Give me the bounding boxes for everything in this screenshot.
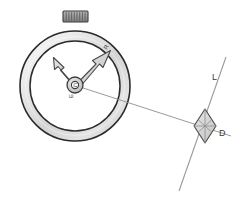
label-line-L: L [212, 72, 217, 82]
label-hub-C: C [73, 82, 78, 88]
crown-body [63, 11, 88, 22]
label-diamond-D: D [219, 128, 226, 138]
label-hub-E: E [68, 94, 74, 98]
crown-button[interactable] [63, 11, 88, 22]
stopwatch-diagram: L D R C E [0, 0, 233, 203]
figure-root: L D R C E [0, 0, 233, 203]
